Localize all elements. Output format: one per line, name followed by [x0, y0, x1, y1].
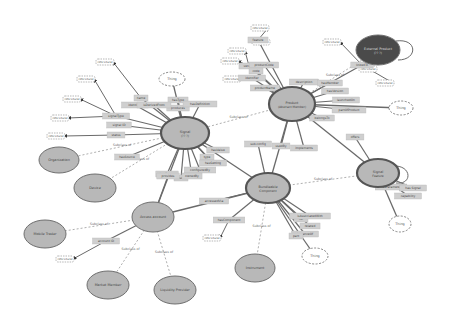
svg-text:signal ID: signal ID — [112, 123, 126, 127]
property-label[interactable]: related — [300, 223, 320, 229]
property-label[interactable]: feature — [248, 37, 268, 43]
svg-text:(Abstract Member): (Abstract Member) — [278, 105, 306, 109]
svg-text:rdfs:Literal: rdfs:Literal — [229, 49, 244, 53]
svg-text:accessedVia: accessedVia — [205, 199, 224, 203]
property-label[interactable]: hasDefinition — [183, 101, 217, 107]
property-label[interactable]: has Signal — [400, 185, 427, 191]
property-label[interactable]: ownedBy — [182, 173, 202, 179]
property-label[interactable]: offers — [346, 134, 364, 140]
class-node[interactable]: Product(Abstract Member) — [269, 87, 315, 121]
property-label[interactable]: launchedOn — [333, 97, 360, 103]
property-label[interactable]: hasValue — [207, 147, 229, 153]
property-label[interactable]: sub-config — [245, 141, 272, 147]
svg-text:capability: capability — [401, 194, 416, 198]
datatype-node[interactable]: rdfs:Literal — [221, 58, 239, 64]
svg-text:belongsTo: belongsTo — [315, 116, 330, 120]
svg-text:ownedBy: ownedBy — [185, 174, 199, 178]
svg-text:account ID: account ID — [98, 239, 115, 243]
svg-text:offers: offers — [351, 135, 360, 139]
thing-node[interactable]: Thing — [159, 72, 185, 86]
property-label[interactable]: accessedVia — [199, 198, 228, 204]
property-label[interactable]: belongsTo — [310, 115, 335, 121]
property-label[interactable]: implements — [291, 145, 318, 151]
property-label[interactable]: signal ID — [107, 122, 132, 128]
datatype-node[interactable]: rdfs:Literal — [63, 96, 81, 102]
property-label[interactable]: type — [200, 154, 214, 160]
property-label[interactable]: hasVersion — [322, 88, 349, 94]
property-label[interactable]: partOfProduct — [332, 107, 366, 113]
property-label[interactable]: status — [107, 132, 125, 138]
class-node[interactable]: Market Member — [87, 271, 129, 299]
class-node[interactable]: Device — [74, 174, 116, 202]
property-label[interactable]: provides — [157, 173, 179, 179]
thing-node[interactable]: Thing — [389, 216, 411, 232]
property-label[interactable]: description — [289, 79, 318, 85]
class-node[interactable]: Signal(?? ?) — [161, 117, 209, 149]
svg-text:rdfs:Literal: rdfs:Literal — [252, 26, 267, 30]
datatype-node[interactable]: rdfs:Literal — [77, 76, 95, 82]
svg-text:productName: productName — [255, 86, 276, 90]
class-node[interactable]: Instrument — [235, 254, 275, 282]
datatype-node[interactable]: rdfs:Literal — [96, 59, 114, 65]
svg-text:Component: Component — [259, 189, 277, 193]
datatype-node[interactable]: rdfs:Literal — [51, 115, 69, 121]
class-node[interactable]: BundleableComponent — [246, 173, 290, 203]
property-label[interactable]: signalType — [103, 113, 130, 119]
svg-text:Feature: Feature — [372, 174, 383, 178]
svg-text:Bundleable: Bundleable — [258, 185, 277, 189]
svg-text:hasComponent: hasComponent — [218, 218, 242, 222]
svg-text:name: name — [137, 96, 146, 100]
property-label[interactable]: code — [249, 68, 263, 74]
svg-text:Signal: Signal — [180, 130, 190, 134]
property-label[interactable]: account ID — [93, 238, 120, 244]
class-node[interactable]: Liquidity Provider — [154, 276, 196, 304]
property-label[interactable]: identifier — [239, 75, 266, 81]
subclass-edge-label: Subclass of — [121, 247, 140, 251]
svg-text:Organization: Organization — [48, 158, 70, 162]
property-label[interactable]: productCode — [249, 62, 278, 68]
svg-text:hasSource: hasSource — [119, 155, 135, 159]
property-label[interactable]: productName — [250, 85, 279, 91]
svg-text:Market Member: Market Member — [95, 283, 122, 287]
external-class-node[interactable]: External Product(?? ?) — [356, 35, 400, 65]
class-node[interactable]: SignalFeature — [357, 159, 399, 187]
svg-text:rdfs:Literal: rdfs:Literal — [324, 40, 339, 44]
datatype-node[interactable]: rdfs:Literal — [203, 235, 221, 241]
svg-text:description: description — [296, 80, 313, 84]
property-label[interactable]: isDerivedFrom — [137, 102, 171, 108]
svg-text:External Product: External Product — [364, 47, 393, 51]
datatype-node[interactable]: rdfs:Literal — [251, 25, 269, 31]
datatype-node[interactable]: rdfs:Literal — [376, 80, 394, 86]
svg-text:Liquidity Provider: Liquidity Provider — [160, 288, 190, 292]
subclass-edge-label: Subclass of — [113, 143, 132, 147]
class-node[interactable]: Access account — [132, 202, 174, 232]
property-label[interactable]: capability — [395, 193, 422, 199]
property-label[interactable]: name — [134, 95, 148, 101]
property-label[interactable]: hasSetting — [200, 160, 227, 166]
svg-text:rdfs:Literal: rdfs:Literal — [48, 134, 63, 138]
property-label[interactable]: configuredBy — [184, 167, 216, 173]
thing-node[interactable]: Thing — [389, 101, 413, 115]
property-label[interactable]: hasComponent — [213, 217, 245, 223]
property-label[interactable]: isAssociatedWith — [290, 213, 331, 219]
class-node[interactable]: Organization — [39, 147, 79, 173]
svg-text:rdfs:Literal: rdfs:Literal — [57, 257, 72, 261]
thing-node[interactable]: Thing — [302, 248, 328, 264]
property-label[interactable]: usedBy — [272, 143, 290, 149]
svg-text:partOfProduct: partOfProduct — [339, 108, 361, 112]
datatype-node[interactable]: rdfs:Literal — [228, 48, 246, 54]
property-label[interactable]: part — [289, 233, 303, 239]
svg-text:implements: implements — [295, 146, 313, 150]
svg-text:rdfs:Literal: rdfs:Literal — [222, 59, 237, 63]
subclass-edge-label: Subclass of — [90, 222, 109, 226]
class-node[interactable]: Mobile Trader — [24, 220, 66, 248]
svg-text:sub-config: sub-config — [250, 142, 266, 146]
svg-text:(?? ?): (?? ?) — [181, 134, 189, 138]
property-label[interactable]: hasMember — [318, 80, 343, 86]
svg-text:rdfs:Literal: rdfs:Literal — [204, 236, 219, 240]
datatype-node[interactable]: rdfs:Literal — [47, 133, 65, 139]
datatype-node[interactable]: rdfs:Literal — [323, 39, 341, 45]
svg-text:rdfs:Literal: rdfs:Literal — [78, 77, 93, 81]
property-label[interactable]: hasSource — [115, 154, 140, 160]
datatype-node[interactable]: rdfs:Literal — [56, 256, 74, 262]
